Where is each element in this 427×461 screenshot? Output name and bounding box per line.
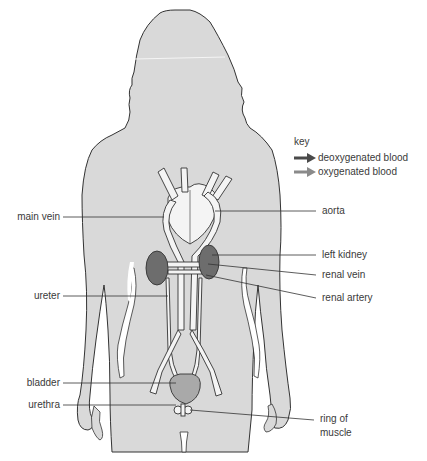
label-left-kidney: left kidney bbox=[322, 249, 367, 261]
key-item-deoxygenated: deoxygenated blood bbox=[294, 152, 408, 164]
label-bladder: bladder bbox=[10, 377, 60, 389]
label-ring-of-muscle-line1: ring of bbox=[320, 413, 348, 425]
label-renal-vein: renal vein bbox=[322, 269, 365, 281]
left-kidney-organ bbox=[199, 245, 219, 279]
label-aorta: aorta bbox=[322, 205, 345, 217]
arrow-right-dark-icon bbox=[294, 153, 316, 163]
label-urethra: urethra bbox=[10, 399, 60, 411]
label-ring-of-muscle-line2: muscle bbox=[320, 427, 352, 439]
key-label-oxygenated: oxygenated blood bbox=[318, 166, 397, 178]
label-ureter: ureter bbox=[10, 290, 60, 302]
key-title: key bbox=[294, 136, 310, 148]
label-renal-artery: renal artery bbox=[322, 292, 373, 304]
urinary-system-diagram bbox=[0, 0, 427, 461]
key-item-oxygenated: oxygenated blood bbox=[294, 166, 397, 178]
label-main-vein: main vein bbox=[10, 211, 60, 223]
key-label-deoxygenated: deoxygenated blood bbox=[318, 152, 408, 164]
left-hand bbox=[91, 406, 102, 440]
arrow-right-light-icon bbox=[294, 167, 316, 177]
right-kidney bbox=[146, 251, 168, 285]
